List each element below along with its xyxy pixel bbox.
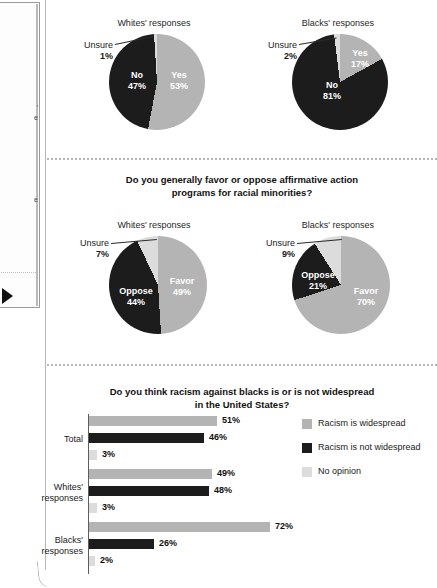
pie-label-yes-whites: Yes 53%: [159, 70, 199, 91]
bar-blacks-no-opinion: [89, 556, 95, 566]
section-divider-1: [47, 158, 437, 160]
callout-unsure-blacks: Unsure 2%: [239, 40, 297, 62]
question-title-affirmative-action: Do you generally favor or oppose affirma…: [47, 174, 437, 199]
pie-label-favor-blacks: Favor 70%: [344, 286, 388, 307]
bar-value-whites-no-opinion: 3%: [102, 502, 115, 512]
bar-total-not-widespread: [89, 433, 204, 443]
bar-group-label-blacks: Blacks' responses: [3, 535, 83, 557]
pie-title-blacks-affirmative: Blacks' responses: [263, 220, 413, 230]
left-panel-fragment-3: e: [34, 196, 38, 204]
pie-label-favor-whites: Favor 49%: [161, 276, 203, 297]
pie-label-no-blacks: No 81%: [312, 80, 352, 101]
legend-swatch-no-opinion-icon: [302, 467, 312, 477]
bar-total-no-opinion: [89, 450, 97, 460]
left-panel-box-inner: [0, 4, 38, 306]
callout-unsure-blacks-affirmative: Unsure 9%: [237, 238, 295, 260]
bar-value-whites-widespread: 49%: [217, 468, 235, 478]
pie-blacks-yesno-graphic: Yes 17% No 81%: [292, 34, 388, 130]
bar-group-label-total: Total: [3, 434, 83, 445]
pie-label-oppose-whites: Oppose 44%: [113, 286, 159, 307]
question-title-racism-widespread: Do you think racism against blacks is or…: [47, 386, 437, 411]
pie-blacks-affirmative-graphic: Favor 70% Oppose 21%: [292, 236, 390, 334]
bar-value-total-widespread: 51%: [222, 415, 240, 425]
left-panel-divider: [0, 272, 36, 273]
legend-label-no-opinion: No opinion: [318, 466, 361, 476]
left-panel-fragment-1: ': [37, 104, 38, 112]
legend-label-not-widespread: Racism is not widespread: [318, 442, 421, 452]
legend-label-widespread: Racism is widespread: [318, 418, 406, 428]
pie-title-whites: Whites' responses: [79, 18, 229, 28]
bar-whites-no-opinion: [89, 503, 97, 513]
right-triangle-icon[interactable]: [2, 288, 13, 304]
callout-unsure-whites-affirmative: Unsure 7%: [53, 238, 109, 260]
bar-total-widespread: [89, 416, 217, 426]
section-divider-2: [47, 364, 437, 366]
bar-group-label-whites: Whites' responses: [3, 482, 83, 504]
infographic-content: Whites' responses Yes 53% No 47% Unsure …: [47, 0, 437, 588]
bar-value-total-not-widespread: 46%: [209, 432, 227, 442]
bar-value-blacks-widespread: 72%: [275, 521, 293, 531]
pie-label-no-whites: No 47%: [117, 70, 157, 91]
pie-label-oppose-blacks: Oppose 21%: [294, 270, 342, 291]
bar-blacks-not-widespread: [89, 539, 154, 549]
pie-whites-yesno-graphic: Yes 53% No 47%: [109, 34, 205, 130]
bar-value-blacks-not-widespread: 26%: [159, 538, 177, 548]
bar-whites-not-widespread: [89, 486, 209, 496]
left-panel-fragment-2: e: [34, 114, 38, 122]
pie-title-whites-affirmative: Whites' responses: [79, 220, 229, 230]
bar-value-total-no-opinion: 3%: [102, 449, 115, 459]
legend-swatch-widespread-icon: [302, 419, 312, 429]
legend-swatch-not-widespread-icon: [302, 443, 312, 453]
bar-blacks-widespread: [89, 522, 270, 532]
callout-unsure-whites: Unsure 1%: [55, 40, 113, 62]
bar-value-blacks-no-opinion: 2%: [100, 555, 113, 565]
pie-whites-affirmative-graphic: Favor 49% Oppose 44%: [109, 236, 207, 334]
bar-whites-widespread: [89, 469, 212, 479]
bar-value-whites-not-widespread: 48%: [214, 485, 232, 495]
pie-title-blacks: Blacks' responses: [263, 18, 413, 28]
pie-label-yes-blacks: Yes 17%: [340, 48, 380, 69]
